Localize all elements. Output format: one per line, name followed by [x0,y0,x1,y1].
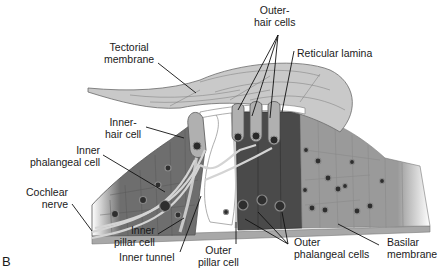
label-tectorial-membrane: Tectorial membrane [104,41,154,65]
label-reticular-lamina: Reticular lamina [297,47,372,59]
organ-of-corti-illustration [0,0,442,272]
label-cochlear-nerve: Cochlear nerve [26,186,68,210]
label-inner-tunnel: Inner tunnel [119,251,174,263]
label-inner-pillar-cell: Inner pillar cell [114,224,155,248]
inner-hair-cell [188,112,206,157]
organ-of-corti-figure: Tectorial membrane Outer- hair cells Ret… [0,0,442,272]
panel-letter: B [2,254,11,269]
label-inner-phalangeal-cell: Inner phalangeal cell [30,144,100,168]
label-outer-hair-cells: Outer- hair cells [254,4,295,28]
label-inner-hair-cell: Inner- hair cell [105,116,141,140]
label-outer-pillar-cell: Outer pillar cell [198,244,239,268]
label-outer-phalangeal-cells: Outer phalangeal cells [294,236,369,260]
label-basilar-membrane: Basilar membrane [387,236,437,260]
